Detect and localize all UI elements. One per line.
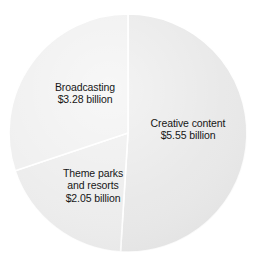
slice-label-creative-content-value: $5.55 billion bbox=[131, 129, 245, 141]
slice-label-broadcasting: Broadcasting $3.28 billion bbox=[29, 81, 141, 106]
slice-label-broadcasting-name: Broadcasting bbox=[29, 81, 141, 93]
slice-label-theme-parks-name-1: Theme parks bbox=[38, 167, 148, 179]
slice-label-broadcasting-value: $3.28 billion bbox=[29, 93, 141, 105]
slice-label-creative-content: Creative content $5.55 billion bbox=[131, 117, 245, 142]
slice-label-theme-parks: Theme parks and resorts $2.05 billion bbox=[38, 167, 148, 204]
slice-label-theme-parks-value: $2.05 billion bbox=[38, 192, 148, 204]
slice-label-creative-content-name: Creative content bbox=[131, 117, 245, 129]
pie-chart: Broadcasting $3.28 billion Creative cont… bbox=[0, 0, 256, 267]
slice-label-theme-parks-name-2: and resorts bbox=[38, 179, 148, 191]
